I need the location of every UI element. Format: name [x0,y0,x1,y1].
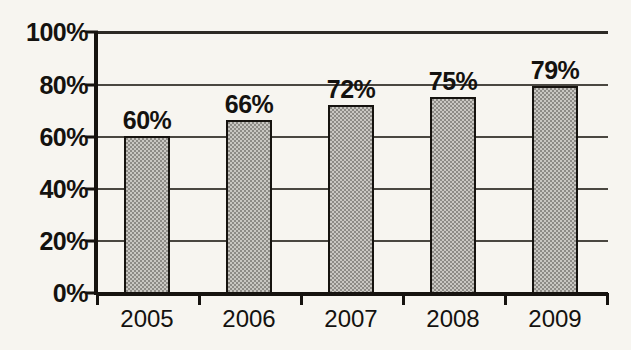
value-label-2008: 75% [429,69,478,94]
y-axis-label-80: 80% [0,73,88,98]
y-axis-label-100: 100% [0,20,88,45]
x-axis-label-2009: 2009 [528,307,581,331]
x-tick-mark-4 [504,293,507,305]
x-axis-label-2008: 2008 [426,307,479,331]
y-axis-label-0: 0% [0,281,88,306]
bar-2007 [328,105,374,295]
x-axis-baseline [96,292,608,296]
x-axis-label-2006: 2006 [222,307,275,331]
value-label-2007: 72% [327,77,376,102]
x-axis-label-2007: 2007 [324,307,377,331]
x-tick-mark-5 [606,293,609,305]
y-axis-line [94,31,98,295]
x-axis-label-2005: 2005 [120,307,173,331]
gridline-100 [96,31,608,34]
bar-2006 [226,120,272,295]
y-axis-label-40: 40% [0,177,88,202]
x-tick-mark-3 [402,293,405,305]
y-axis-label-20: 20% [0,229,88,254]
bar-2008 [430,97,476,295]
value-label-2005: 60% [123,108,172,133]
value-label-2009: 79% [531,58,580,83]
x-tick-mark-0 [96,293,99,305]
bar-2009 [532,86,578,295]
x-tick-mark-2 [300,293,303,305]
x-tick-mark-1 [198,293,201,305]
y-axis-label-60: 60% [0,125,88,150]
value-label-2006: 66% [225,92,274,117]
bar-chart: 100% 80% 60% 40% 20% 0% 60% 66% 72% 75% … [0,0,631,350]
bar-2005 [124,136,170,295]
